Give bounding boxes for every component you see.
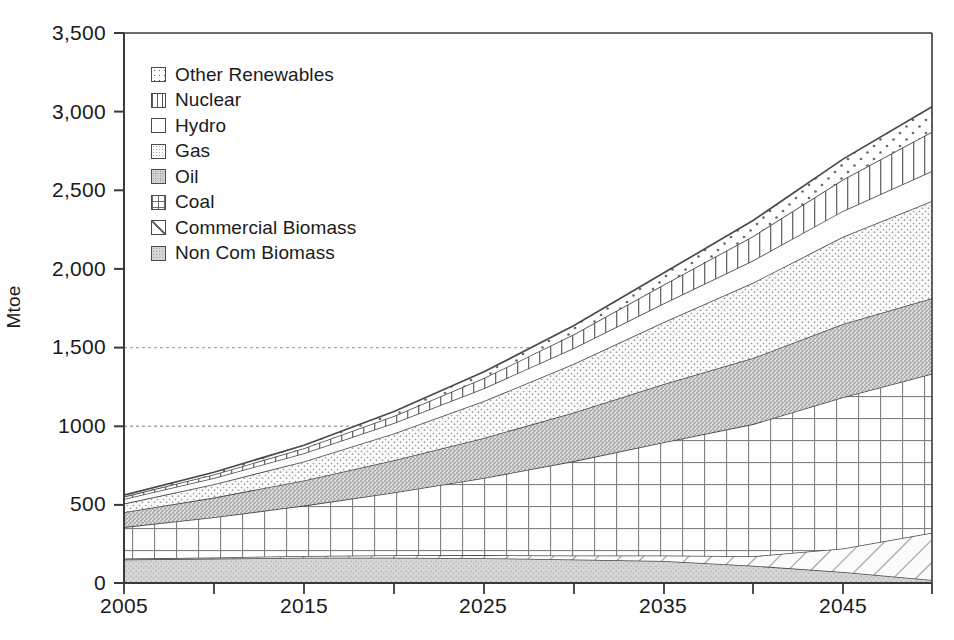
legend-item-other-renewables[interactable]: Other Renewables [151,62,356,88]
legend-swatch-coal-icon [151,195,166,210]
legend-swatch-gas-icon [151,144,166,159]
legend-item-oil[interactable]: Oil [151,164,356,190]
legend-item-coal[interactable]: Coal [151,190,356,216]
legend-swatch-other-renewables-icon [151,67,166,82]
chart-figure: Mtoe 3,500 3,000 2,500 2,000 1,500 1000 … [0,0,954,640]
legend-label: Hydro [175,115,226,137]
legend-label: Commercial Biomass [175,217,356,239]
x-axis-ticks [124,583,932,594]
legend-item-gas[interactable]: Gas [151,139,356,165]
legend-label: Oil [175,166,199,188]
legend-label: Nuclear [175,89,241,111]
y-axis-ticks [114,33,124,583]
legend-label: Coal [175,191,214,213]
legend-label: Other Renewables [175,64,334,86]
legend-swatch-nuclear-icon [151,93,166,108]
legend-item-non-com-biomass[interactable]: Non Com Biomass [151,241,356,267]
legend-label: Gas [175,140,210,162]
legend-swatch-non-com-biomass-icon [151,246,166,261]
chart-legend: Other Renewables Nuclear Hydro Gas Oil C… [151,62,356,266]
chart-canvas [0,0,954,640]
legend-item-commercial-biomass[interactable]: Commercial Biomass [151,215,356,241]
legend-swatch-oil-icon [151,169,166,184]
legend-item-hydro[interactable]: Hydro [151,113,356,139]
legend-swatch-hydro-icon [151,118,166,133]
legend-label: Non Com Biomass [175,242,335,264]
legend-item-nuclear[interactable]: Nuclear [151,88,356,114]
legend-swatch-commercial-biomass-icon [151,220,166,235]
